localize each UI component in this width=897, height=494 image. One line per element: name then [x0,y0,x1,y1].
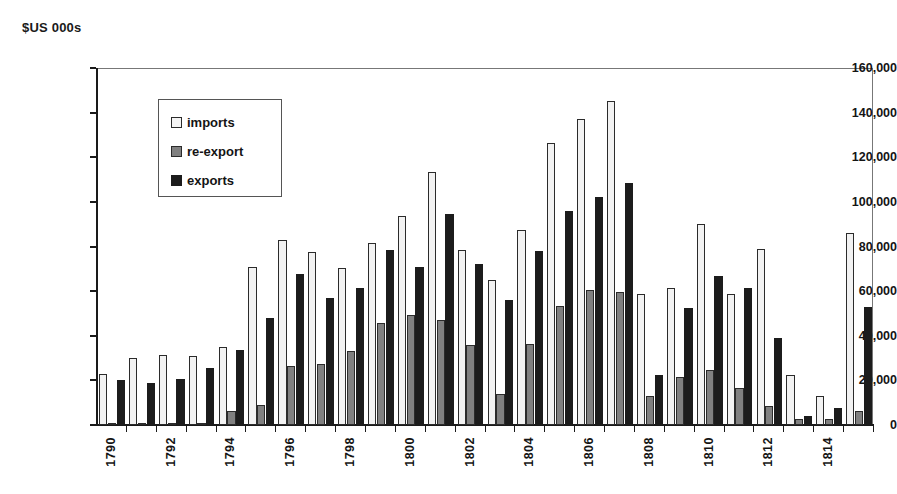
bar-exports-1798 [356,288,364,425]
x-axis-tick-mark [425,426,426,432]
bar-imports-1795 [248,267,256,425]
bar-imports-1799 [368,243,376,425]
bar-exports-1813 [804,416,812,425]
y-axis-tick-mark [90,424,96,426]
bar-re-export-1795 [257,405,265,425]
bar-re-export-1815 [855,411,863,426]
x-axis-tick-label: 1800 [403,437,417,467]
x-axis-tick-mark [365,426,366,432]
x-axis-tick-mark [724,426,725,432]
x-axis-tick-mark [245,426,246,432]
bar-imports-1809 [667,288,675,425]
bar-imports-1810 [697,224,705,425]
legend-entry-exports[interactable]: exports [171,167,281,194]
bar-re-export-1801 [437,320,445,425]
bar-imports-1813 [786,375,794,425]
legend-swatch-icon [171,146,182,157]
bar-re-export-1814 [825,419,833,425]
bar-exports-1814 [834,408,842,425]
bar-imports-1814 [816,396,824,425]
chart-title: $US 000s [22,20,81,35]
bar-exports-1796 [296,274,304,425]
bar-imports-1806 [577,119,585,425]
x-axis-tick-mark [604,426,605,432]
bar-re-export-1802 [466,345,474,425]
x-axis-tick-mark [783,426,784,432]
x-axis-tick-mark [873,426,874,432]
x-axis-tick-label: 1798 [343,437,357,467]
bar-imports-1801 [428,172,436,425]
x-axis-tick-mark [305,426,306,432]
bar-exports-1794 [236,350,244,425]
legend-swatch-icon [171,175,182,186]
x-axis-tick-mark [275,426,276,432]
legend-label: re-export [187,144,243,159]
bar-re-export-1790 [108,423,116,425]
x-axis-tick-label: 1790 [104,437,118,467]
bar-re-export-1803 [496,394,504,425]
x-axis-tick-label: 1814 [821,437,835,467]
bar-imports-1793 [189,356,197,425]
y-axis-tick-mark [90,246,96,248]
x-axis-tick-label: 1804 [522,437,536,467]
bar-imports-1802 [458,250,466,425]
x-axis-tick-mark [395,426,396,432]
bar-re-export-1812 [765,406,773,425]
bar-imports-1811 [727,294,735,425]
bar-exports-1802 [475,264,483,425]
bar-imports-1812 [757,249,765,425]
bar-exports-1800 [415,267,423,425]
x-axis-tick-label: 1812 [761,437,775,467]
bar-exports-1811 [744,288,752,425]
bar-re-export-1805 [556,306,564,425]
bar-exports-1805 [565,211,573,425]
bar-re-export-1794 [227,411,235,426]
bar-re-export-1800 [407,315,415,425]
bar-exports-1793 [206,368,214,425]
bar-re-export-1807 [616,292,624,425]
x-axis-tick-mark [664,426,665,432]
x-axis-tick-mark [544,426,545,432]
bar-exports-1791 [147,383,155,425]
x-axis-tick-mark [753,426,754,432]
bar-re-export-1810 [706,370,714,425]
bar-exports-1799 [386,250,394,425]
bar-imports-1807 [607,101,615,425]
bar-imports-1798 [338,268,346,425]
bar-imports-1797 [308,252,316,425]
x-axis-tick-mark [335,426,336,432]
bar-imports-1792 [159,355,167,425]
bar-exports-1807 [625,183,633,425]
chart-container: $US 000s 020,00040,00060,00080,000100,00… [0,0,897,494]
bar-re-export-1799 [377,323,385,425]
x-axis-tick-label: 1796 [283,437,297,467]
bar-exports-1806 [595,197,603,425]
bar-re-export-1809 [676,377,684,425]
bar-re-export-1792 [168,423,176,425]
x-axis-tick-mark [156,426,157,432]
y-axis-tick-mark [90,290,96,292]
legend-entry-re-export[interactable]: re-export [171,138,281,165]
bar-re-export-1806 [586,290,594,425]
bar-imports-1796 [278,240,286,425]
x-axis-tick-mark [455,426,456,432]
x-axis-tick-mark [514,426,515,432]
bar-exports-1808 [655,375,663,425]
x-axis-tick-label: 1802 [463,437,477,467]
bar-exports-1790 [117,380,125,425]
bar-exports-1810 [714,276,722,425]
x-axis-tick-mark [216,426,217,432]
x-axis-tick-mark [485,426,486,432]
bar-imports-1804 [517,230,525,425]
x-axis-tick-mark [634,426,635,432]
bar-re-export-1798 [347,351,355,425]
legend-label: exports [187,173,234,188]
bar-imports-1791 [129,358,137,425]
x-axis-tick-label: 1808 [642,437,656,467]
x-axis-tick-label: 1810 [702,437,716,467]
y-axis-tick-mark [90,112,96,114]
bar-re-export-1804 [526,344,534,425]
x-axis-tick-label: 1794 [223,437,237,467]
legend-entry-imports[interactable]: imports [171,109,281,136]
y-axis-tick-mark [90,335,96,337]
